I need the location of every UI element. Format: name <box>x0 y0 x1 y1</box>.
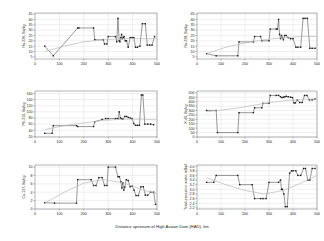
data-point-marker <box>295 170 296 171</box>
x-tick-label: 200 <box>242 62 248 66</box>
data-point-marker <box>135 47 136 48</box>
x-tick-label: 500 <box>154 212 160 216</box>
data-point-marker <box>118 111 119 112</box>
data-point-marker <box>137 47 138 48</box>
data-point-marker <box>145 23 146 24</box>
data-point-marker <box>129 37 130 38</box>
data-point-marker <box>295 47 296 48</box>
panel-uranium: 2.22.42.62.83.03.23.43.63.84.00100200300… <box>180 162 320 218</box>
data-point-marker <box>128 117 129 118</box>
data-point-marker <box>253 112 254 113</box>
data-point-marker <box>105 118 106 119</box>
data-point-marker <box>140 186 141 187</box>
data-point-marker <box>115 118 116 119</box>
data-point-marker <box>145 194 146 195</box>
plot-area-ra228: 510152025303540450100200300400500 <box>180 10 320 68</box>
data-point-marker <box>121 187 122 188</box>
x-tick-label: 300 <box>105 212 111 216</box>
y-tick-label: 0 <box>192 135 194 139</box>
data-point-marker <box>115 166 116 167</box>
data-point-marker <box>93 126 94 127</box>
data-point-marker <box>131 37 132 38</box>
data-point-marker <box>284 96 285 97</box>
y-tick-label: 150 <box>188 122 194 126</box>
data-point-marker <box>237 175 238 176</box>
x-tick-label: 0 <box>34 62 36 66</box>
data-point-marker <box>126 179 127 180</box>
data-point-marker <box>288 96 289 97</box>
y-tick-label: 2.4 <box>189 202 194 206</box>
y-axis-label-uranium: Total uranium in water, mBq/l <box>184 164 188 210</box>
data-point-marker <box>281 97 282 98</box>
data-point-marker <box>126 116 127 117</box>
data-point-marker <box>291 170 292 171</box>
data-point-marker <box>119 176 120 177</box>
data-point-marker <box>76 125 77 126</box>
data-point-marker <box>77 27 78 28</box>
plot-area-pb210: 204060801001201401600100200300400500 <box>18 88 160 146</box>
x-tick-label: 100 <box>56 212 62 216</box>
panel-ra226: 510152025303540450100200300400500Ra-226,… <box>18 10 160 68</box>
y-tick-label: 30 <box>190 28 194 32</box>
data-point-marker <box>260 36 261 37</box>
x-tick-label: 400 <box>290 140 296 144</box>
data-point-marker <box>147 123 148 124</box>
panel-ra228: 510152025303540450100200300400500Ra-228,… <box>180 10 320 68</box>
data-point-marker <box>106 185 107 186</box>
panel-pb210: 204060801001201401600100200300400500Pb-2… <box>18 88 160 146</box>
data-point-marker <box>151 44 152 45</box>
data-point-marker <box>137 125 138 126</box>
panel-cs137: 02468100100200300400500Cs-137, Bq/kg <box>18 162 160 218</box>
y-tick-label: 25 <box>190 34 194 38</box>
data-point-marker <box>108 36 109 37</box>
x-tick-label: 400 <box>130 212 136 216</box>
data-point-marker <box>280 179 281 180</box>
data-point-marker <box>290 96 291 97</box>
y-tick-label: 2.6 <box>189 197 194 201</box>
data-point-marker <box>51 133 52 134</box>
x-tick-label: 500 <box>154 62 160 66</box>
data-point-marker <box>295 102 296 103</box>
data-point-marker <box>95 185 96 186</box>
data-point-marker <box>302 18 303 19</box>
data-point-marker <box>254 107 255 108</box>
data-point-marker <box>135 195 136 196</box>
x-tick-label: 100 <box>218 62 224 66</box>
data-point-marker <box>292 38 293 39</box>
data-point-marker <box>117 118 118 119</box>
data-point-marker <box>149 44 150 45</box>
plot-area-cs137: 02468100100200300400500 <box>18 162 160 218</box>
data-point-marker <box>297 175 298 176</box>
data-point-marker <box>279 34 280 35</box>
data-point-marker <box>314 168 315 169</box>
data-point-marker <box>270 28 271 29</box>
data-point-marker <box>309 179 310 180</box>
y-tick-label: 80 <box>28 116 32 120</box>
x-tick-label: 300 <box>105 140 111 144</box>
x-tick-label: 200 <box>242 140 248 144</box>
data-point-marker <box>206 182 207 183</box>
y-tick-label: 2 <box>30 199 32 203</box>
y-tick-label: 60 <box>28 122 32 126</box>
x-tick-label: 200 <box>81 62 87 66</box>
data-point-marker <box>265 198 266 199</box>
y-tick-label: 4 <box>30 191 32 195</box>
data-point-marker <box>285 206 286 207</box>
y-tick-label: 5 <box>30 55 32 59</box>
data-point-marker <box>121 34 122 35</box>
data-point-marker <box>238 41 239 42</box>
x-tick-label: 400 <box>290 62 296 66</box>
data-point-marker <box>76 202 77 203</box>
data-point-marker <box>154 36 155 37</box>
data-point-marker <box>44 45 45 46</box>
data-point-marker <box>106 43 107 44</box>
data-point-marker <box>128 180 129 181</box>
panel-k40: 0501001502002503003504004505000100200300… <box>180 88 320 146</box>
y-tick-label: 3.8 <box>189 169 194 173</box>
y-tick-label: 35 <box>28 23 32 27</box>
y-tick-label: 30 <box>28 28 32 32</box>
y-tick-label: 45 <box>190 12 194 16</box>
x-tick-label: 300 <box>266 140 272 144</box>
data-point-marker <box>268 40 269 41</box>
data-point-marker <box>129 186 130 187</box>
